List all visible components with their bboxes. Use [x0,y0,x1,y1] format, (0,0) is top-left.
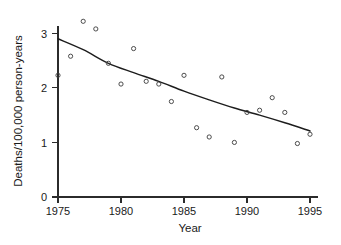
data-point [283,110,287,114]
x-tick-label-1990: 1990 [235,205,259,217]
data-point [182,73,186,77]
data-point [157,82,161,86]
y-tick-label-3: 3 [41,28,47,40]
data-point [258,108,262,112]
data-point [232,140,236,144]
data-point [220,75,224,79]
scatter-plot: 3 2 1 0 1975 1980 1985 1990 1995 Year De… [0,0,341,245]
data-point [94,27,98,31]
data-point-group [56,19,312,145]
chart-figure: 3 2 1 0 1975 1980 1985 1990 1995 Year De… [0,0,341,245]
y-axis-ticks [52,33,58,197]
data-point [295,141,299,145]
data-point [195,126,199,130]
x-tick-label-1980: 1980 [109,205,133,217]
data-point [144,79,148,83]
data-point [207,135,211,139]
x-tick-label-1975: 1975 [46,205,70,217]
x-axis-ticks [58,197,310,203]
fitted-trend-curve [58,39,310,131]
y-tick-label-0: 0 [41,191,47,203]
x-axis-title: Year [178,222,201,234]
data-point [69,54,73,58]
x-tick-label-1995: 1995 [298,205,322,217]
data-point [308,132,312,136]
x-tick-label-1985: 1985 [172,205,196,217]
data-point [132,46,136,50]
data-point [81,19,85,23]
x-axis-tick-labels: 1975 1980 1985 1990 1995 [46,205,322,217]
y-tick-label-2: 2 [41,82,47,94]
y-tick-label-1: 1 [41,137,47,149]
data-point [169,99,173,103]
data-point [119,82,123,86]
data-point [270,96,274,100]
y-axis-title: Deaths/100,000 person-years [12,35,24,187]
y-axis-tick-labels: 3 2 1 0 [41,28,47,204]
